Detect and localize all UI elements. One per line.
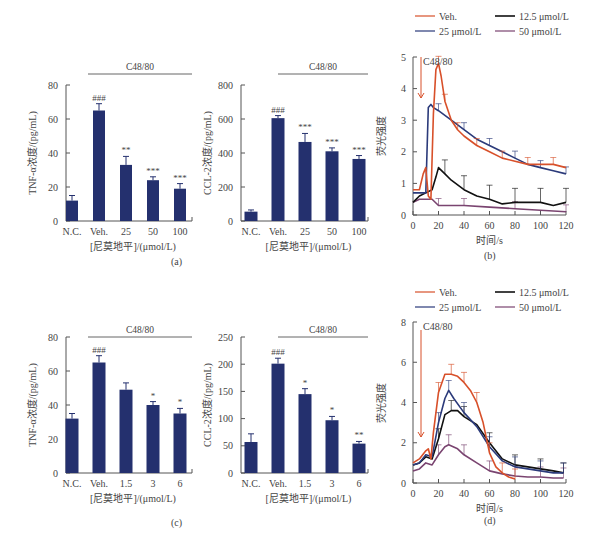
x-tick-label: 100 [173, 226, 188, 237]
y-tick-label: 600 [218, 114, 233, 125]
y-tick-label: 60 [48, 366, 58, 377]
significance-marker: ** [355, 430, 365, 440]
y-axis-label: CCL-2浓度/(pg/mL) [201, 111, 214, 195]
bar-100 [353, 159, 366, 221]
x-tick-label: 6 [178, 478, 183, 489]
x-tick-label: N.C. [242, 478, 261, 489]
significance-marker: *** [173, 173, 187, 183]
significance-marker: ### [92, 345, 106, 355]
y-tick-label: 50 [223, 440, 233, 451]
significance-marker: * [303, 378, 308, 388]
bar-N.C. [66, 419, 79, 473]
x-axis-label: 时间/s [476, 502, 503, 514]
figure-canvas: 020406080TNF-α浓度/(pg/mL)C48/80N.C.###Veh… [0, 0, 601, 550]
y-tick-label: 2 [401, 146, 406, 157]
y-tick-label: 150 [218, 386, 233, 397]
significance-marker: *** [298, 122, 312, 132]
x-tick-label: 50 [148, 226, 158, 237]
y-tick-label: 80 [48, 80, 58, 91]
bar-chart-c-right [241, 337, 368, 473]
x-tick-label: 0 [411, 220, 416, 231]
y-tick-label: 40 [48, 400, 58, 411]
significance-marker: * [178, 397, 183, 407]
bar-6 [174, 414, 187, 474]
x-tick-label: 40 [459, 488, 469, 499]
x-tick-label: 20 [434, 220, 444, 231]
significance-marker: ### [271, 347, 285, 357]
bar-3 [326, 420, 339, 473]
bar-50 [147, 180, 159, 221]
x-tick-label: 120 [559, 488, 574, 499]
bar-N.C. [66, 201, 78, 221]
y-axis-label: CCL-2浓度/(pg/mL) [201, 363, 214, 447]
x-tick-label: 80 [510, 220, 520, 231]
stimulus-bracket-label: C48/80 [309, 325, 337, 335]
x-tick-label: 80 [510, 488, 520, 499]
bar-6 [353, 444, 366, 473]
bar-N.C. [245, 212, 258, 221]
significance-marker: *** [325, 137, 339, 147]
x-tick-label: 25 [121, 226, 131, 237]
y-tick-label: 100 [218, 413, 233, 424]
legend-entry: 50 μmol/L [519, 26, 561, 37]
y-tick-label: 800 [218, 80, 233, 91]
x-axis-label: [尼莫地平]/(μmol/L) [90, 492, 176, 505]
x-tick-label: Veh. [90, 478, 108, 489]
legend-entry: 50 μmol/L [519, 302, 561, 313]
panel-label-d: (d) [484, 515, 496, 526]
y-tick-label: 2 [401, 437, 406, 448]
y-tick-label: 0 [401, 478, 406, 489]
significance-marker: *** [352, 145, 366, 155]
x-tick-label: Veh. [269, 226, 287, 237]
x-axis-label: 时间/s [476, 234, 503, 246]
bar-25 [120, 165, 132, 221]
significance-marker: ### [271, 105, 285, 115]
bar-N.C. [245, 442, 258, 473]
x-tick-label: 60 [485, 488, 495, 499]
x-tick-label: Veh. [90, 226, 108, 237]
x-tick-label: N.C. [63, 478, 82, 489]
x-tick-label: 40 [459, 220, 469, 231]
x-axis-label: [尼莫地平]/(μmol/L) [266, 492, 352, 505]
x-axis-label: [尼莫地平]/(μmol/L) [90, 240, 176, 253]
x-tick-label: 20 [434, 488, 444, 499]
legend-entry: Veh. [439, 287, 457, 298]
x-axis-label: [尼莫地平]/(μmol/L) [266, 240, 352, 253]
y-tick-label: 400 [218, 148, 233, 159]
legend-entry: 12.5 μmol/L [519, 11, 569, 22]
bar-chart-c-left [66, 337, 193, 473]
y-axis-label: 荧光强度 [375, 383, 387, 423]
bar-25 [299, 142, 312, 221]
y-tick-label: 8 [401, 317, 406, 328]
x-tick-label: 50 [327, 226, 337, 237]
panel-label-c: (c) [171, 517, 182, 528]
significance-marker: ### [92, 93, 106, 103]
bar-50 [326, 151, 339, 221]
x-tick-label: N.C. [63, 226, 82, 237]
y-tick-label: 0 [228, 216, 233, 227]
x-tick-label: 120 [559, 220, 574, 231]
stimulus-annotation: C48/80 [423, 56, 452, 67]
y-axis-label: TNF-α浓度/(pg/mL) [26, 111, 39, 195]
significance-marker: * [151, 391, 156, 401]
y-tick-label: 4 [401, 397, 406, 408]
x-tick-label: 1.5 [120, 478, 133, 489]
bar-Veh. [93, 363, 106, 474]
bar-Veh. [272, 364, 285, 473]
legend-entry: Veh. [439, 11, 457, 22]
significance-marker: ** [122, 145, 132, 155]
y-axis-label: TNF-α浓度/(pg/mL) [26, 363, 39, 447]
y-tick-label: 0 [228, 468, 233, 479]
significance-marker: * [330, 405, 335, 415]
x-tick-label: 25 [300, 226, 310, 237]
legend-entry: 12.5 μmol/L [519, 287, 569, 298]
legend-entry: 25 μmol/L [439, 26, 481, 37]
panel-label-b: (b) [484, 250, 496, 261]
stimulus-bracket-label: C48/80 [126, 62, 154, 72]
y-tick-label: 5 [401, 52, 406, 63]
x-tick-label: 100 [533, 488, 548, 499]
y-tick-label: 0 [401, 210, 406, 221]
y-tick-label: 1 [401, 178, 406, 189]
bar-Veh. [93, 111, 105, 222]
x-tick-label: 3 [330, 478, 335, 489]
